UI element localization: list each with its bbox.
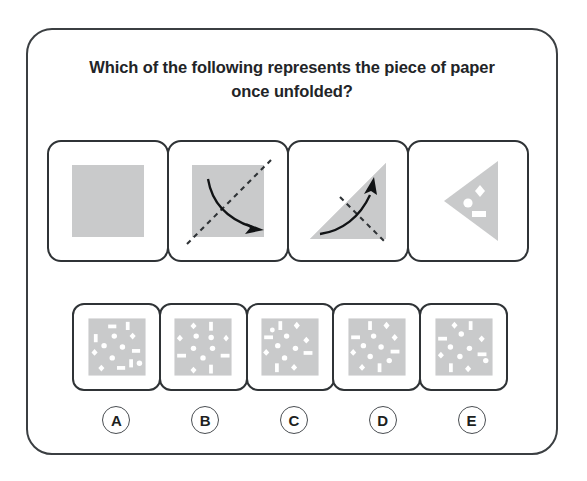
- option-b-pattern: [169, 313, 237, 381]
- fold-sequence-row: [47, 140, 536, 262]
- sequence-panel-unfolded-square: [47, 140, 169, 262]
- option-a-pattern: [83, 313, 151, 381]
- answer-letter-e[interactable]: E: [458, 406, 486, 434]
- question-line-2: once unfolded?: [52, 80, 532, 104]
- answer-option-c[interactable]: [246, 303, 335, 391]
- answer-option-e[interactable]: [419, 303, 508, 391]
- answer-letters-row: A B C D E: [72, 400, 516, 440]
- option-d-pattern: [343, 313, 411, 381]
- letter-slot-e: E: [427, 400, 516, 440]
- option-c-pattern: [256, 313, 324, 381]
- answer-options-row: [72, 303, 516, 391]
- first-fold-diagonal-icon: [178, 151, 278, 251]
- letter-slot-c: C: [250, 400, 339, 440]
- letter-slot-b: B: [161, 400, 250, 440]
- option-e-pattern: [430, 313, 498, 381]
- sequence-panel-first-fold: [167, 140, 289, 262]
- answer-letter-d[interactable]: D: [369, 406, 397, 434]
- answer-option-d[interactable]: [332, 303, 421, 391]
- letter-slot-a: A: [72, 400, 161, 440]
- punched-triangle-icon: [418, 151, 518, 251]
- sequence-panel-punched-triangle: [407, 140, 529, 262]
- second-fold-triangle-icon: [298, 151, 398, 251]
- answer-option-a[interactable]: [72, 303, 161, 391]
- letter-slot-d: D: [338, 400, 427, 440]
- question-prompt: Which of the following represents the pi…: [52, 56, 532, 104]
- question-line-1: Which of the following represents the pi…: [52, 56, 532, 80]
- sequence-panel-second-fold: [287, 140, 409, 262]
- puzzle-root: Which of the following represents the pi…: [0, 0, 587, 481]
- unfolded-square-icon: [58, 151, 158, 251]
- answer-letter-a[interactable]: A: [102, 406, 130, 434]
- answer-letter-c[interactable]: C: [280, 406, 308, 434]
- answer-letter-b[interactable]: B: [191, 406, 219, 434]
- answer-option-b[interactable]: [159, 303, 248, 391]
